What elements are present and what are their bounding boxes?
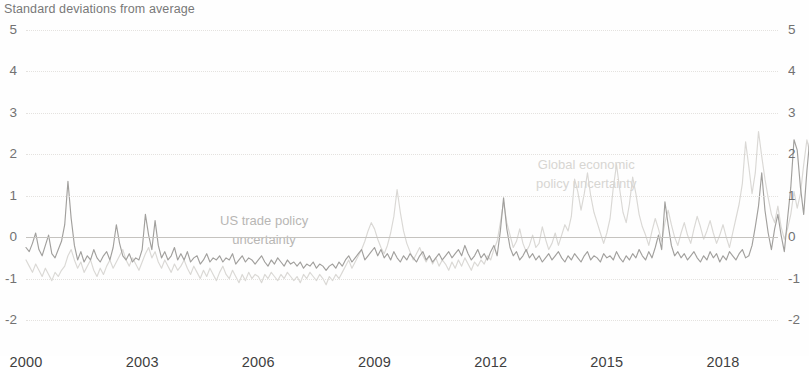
y-axis-tick-right-2: 2 (788, 147, 796, 161)
y-axis-tick-left-5: 5 (9, 23, 17, 37)
gridline (26, 279, 778, 280)
y-axis-tick-right-4: 4 (788, 64, 796, 78)
gridline (26, 113, 778, 114)
y-axis-tick-right--2: -2 (788, 313, 800, 327)
zero-line (26, 237, 778, 238)
gridline (26, 154, 778, 155)
y-axis-tick-right-1: 1 (788, 189, 796, 203)
y-axis-tick-right-5: 5 (788, 23, 796, 37)
y-axis-title: Standard deviations from average (4, 2, 195, 16)
gridline (26, 196, 778, 197)
x-axis-tick-2012: 2012 (474, 354, 507, 370)
y-axis-tick-right-0: 0 (788, 230, 796, 244)
y-axis-tick-left-4: 4 (9, 64, 17, 78)
y-axis-tick-left--2: -2 (5, 313, 17, 327)
y-axis-tick-left-3: 3 (9, 106, 17, 120)
annotation-global-line-2: policy uncertainty (536, 175, 636, 194)
annotation-global-line-1: Global economic (536, 156, 636, 175)
x-axis-tick-2009: 2009 (358, 354, 391, 370)
x-axis-tick-2003: 2003 (126, 354, 159, 370)
series-layer (26, 30, 778, 320)
annotation-global-epu: Global economic policy uncertainty (536, 156, 636, 194)
y-axis-tick-right-3: 3 (788, 106, 796, 120)
x-axis-tick-2018: 2018 (706, 354, 739, 370)
annotation-us-line-1: US trade policy (220, 212, 308, 231)
gridline (26, 30, 778, 31)
y-axis-tick-left-0: 0 (9, 230, 17, 244)
plot-area: US trade policy uncertainty Global econo… (26, 30, 778, 320)
annotation-us-trade-policy: US trade policy uncertainty (220, 212, 308, 250)
series-line-us-trade-policy-uncertainty (26, 42, 809, 270)
x-axis-tick-2000: 2000 (9, 354, 42, 370)
annotation-us-line-2: uncertainty (220, 231, 308, 250)
y-axis-tick-left-2: 2 (9, 147, 17, 161)
gridline (26, 71, 778, 72)
gridline (26, 320, 778, 321)
x-axis-tick-2015: 2015 (590, 354, 623, 370)
y-axis-tick-left-1: 1 (9, 189, 17, 203)
y-axis-tick-left--1: -1 (5, 272, 17, 286)
y-axis-tick-right--1: -1 (788, 272, 800, 286)
x-axis-tick-2006: 2006 (242, 354, 275, 370)
